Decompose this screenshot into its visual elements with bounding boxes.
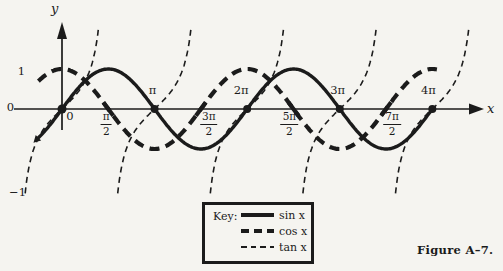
fraction-numerator: π <box>101 111 112 125</box>
thick-dashed-line-sample-icon <box>241 229 274 233</box>
legend-row-cos: cos x <box>241 225 307 237</box>
fraction-denominator: 2 <box>101 125 112 137</box>
legend-key-box: Key: sin x cos x tan x <box>202 202 314 264</box>
fraction-numerator: 3π <box>200 111 218 125</box>
legend-label-cos: cos x <box>279 226 307 237</box>
x-axis-label: x <box>487 102 494 115</box>
legend-row-tan: tan x <box>241 241 307 253</box>
legend-row-sin: sin x <box>241 209 305 221</box>
solid-line-sample-icon <box>241 213 274 216</box>
x-tick-label-3pi-2: 3π2 <box>200 111 218 137</box>
y-tick-label-neg1: −1 <box>4 187 26 199</box>
thin-dashed-line-sample-icon <box>241 246 274 248</box>
x-tick-label-3pi: 3π <box>330 85 345 97</box>
fraction-numerator: 7π <box>383 111 401 125</box>
x-tick-label-4pi: 4π <box>421 85 436 97</box>
fraction-denominator: 2 <box>281 125 299 137</box>
legend-label-tan: tan x <box>279 242 307 253</box>
legend-label-sin: sin x <box>279 210 305 221</box>
y-tick-label-0: 0 <box>0 102 14 114</box>
figure-caption: Figure A–7. <box>417 243 493 257</box>
x-tick-label-pi: π <box>149 85 157 97</box>
y-axis-label: y <box>51 2 58 15</box>
x-tick-label-2pi: 2π <box>234 85 249 97</box>
y-tick-label-1: 1 <box>3 66 25 78</box>
figure-page: y x 1 0 −1 0π2π3π22π5π23π7π24π Key: sin … <box>0 0 503 271</box>
fraction-numerator: 5π <box>281 111 299 125</box>
x-tick-label-5pi-2: 5π2 <box>281 111 299 137</box>
fraction-denominator: 2 <box>383 125 401 137</box>
fraction-denominator: 2 <box>200 125 218 137</box>
legend-title: Key: <box>213 210 237 223</box>
x-tick-label-7pi-2: 7π2 <box>383 111 401 137</box>
x-tick-label-pi-2: π2 <box>101 111 112 137</box>
x-tick-label-0: 0 <box>66 111 73 123</box>
